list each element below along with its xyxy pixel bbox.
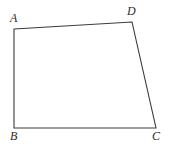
vertex-label-c: C bbox=[152, 130, 160, 142]
vertex-label-a: A bbox=[10, 12, 17, 24]
vertex-label-d: D bbox=[127, 5, 136, 17]
vertex-label-b: B bbox=[10, 130, 17, 142]
quadrilateral-shape bbox=[14, 22, 156, 128]
geometry-figure: A D B C bbox=[0, 0, 170, 144]
quadrilateral-svg bbox=[0, 0, 170, 144]
